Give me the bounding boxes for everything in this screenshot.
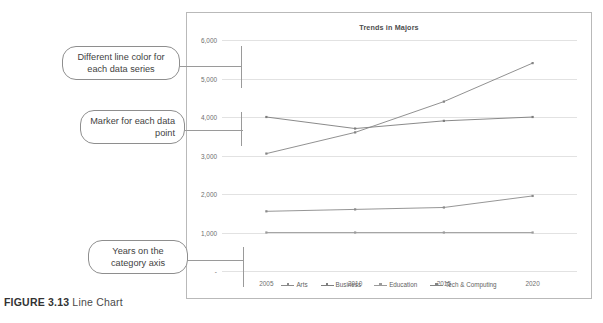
callout-years: Years on the category axis: [88, 240, 188, 274]
y-axis-tick-label: 6,000: [201, 37, 217, 44]
data-point-marker: [443, 101, 445, 103]
callout-years-leader: [188, 260, 244, 261]
callout-marker-text: Marker for each data point: [90, 116, 175, 138]
data-point-marker: [532, 116, 534, 118]
data-point-marker: [354, 127, 356, 129]
gridline: [222, 271, 577, 272]
callout-line-color-leader-tick: [241, 46, 242, 88]
y-axis-tick-label: 2,000: [201, 191, 217, 198]
callout-line-color-leader: [180, 66, 242, 67]
callout-marker-leader: [185, 130, 243, 131]
legend-item-arts[interactable]: Arts: [281, 281, 307, 288]
series-line-tech-computing: [266, 63, 532, 153]
callout-marker: Marker for each data point: [80, 110, 185, 144]
data-point-marker: [443, 120, 445, 122]
data-point-marker: [265, 231, 267, 233]
data-point-marker: [265, 152, 267, 154]
plot-area: -1,0002,0003,0004,0005,0006,000200520102…: [222, 40, 577, 271]
legend-item-label: Business: [336, 281, 362, 288]
data-point-marker: [354, 231, 356, 233]
legend-line-marker-icon: [430, 282, 443, 287]
legend-item-tech-computing[interactable]: Tech & Computing: [430, 281, 496, 288]
y-axis-tick-label: -: [215, 268, 217, 275]
data-point-marker: [265, 116, 267, 118]
legend-item-business[interactable]: Business: [321, 281, 362, 288]
figure-caption: FIGURE 3.13 Line Chart: [4, 296, 123, 308]
series-line-business: [266, 117, 532, 129]
legend-line-marker-icon: [321, 282, 334, 287]
callout-line-color: Different line color for each data serie…: [62, 46, 180, 80]
chart-legend[interactable]: ArtsBusinessEducationTech & Computing: [187, 281, 591, 288]
legend-item-label: Tech & Computing: [445, 281, 496, 288]
y-axis-tick-label: 3,000: [201, 152, 217, 159]
data-point-marker: [265, 210, 267, 212]
data-point-marker: [532, 62, 534, 64]
callout-marker-leader-tick: [241, 112, 242, 146]
y-axis-tick-label: 4,000: [201, 114, 217, 121]
legend-line-marker-icon: [374, 282, 387, 287]
data-point-marker: [354, 131, 356, 133]
legend-line-marker-icon: [281, 282, 294, 287]
series-line-arts: [266, 196, 532, 211]
callout-line-color-text: Different line color for each data serie…: [77, 52, 164, 74]
data-point-marker: [443, 206, 445, 208]
data-point-marker: [532, 195, 534, 197]
legend-item-label: Education: [389, 281, 417, 288]
chart-container: Trends in Majors -1,0002,0003,0004,0005,…: [186, 12, 592, 299]
y-axis-tick-label: 1,000: [201, 229, 217, 236]
data-point-marker: [532, 231, 534, 233]
data-point-marker: [354, 208, 356, 210]
chart-title: Trends in Majors: [187, 23, 591, 32]
legend-item-education[interactable]: Education: [374, 281, 417, 288]
figure-number: FIGURE 3.13: [4, 296, 69, 308]
data-point-marker: [443, 231, 445, 233]
y-axis-tick-label: 5,000: [201, 75, 217, 82]
series-layer: [222, 40, 577, 271]
figure-page: Trends in Majors -1,0002,0003,0004,0005,…: [0, 0, 603, 323]
legend-item-label: Arts: [296, 281, 307, 288]
callout-years-leader-tick: [243, 247, 244, 287]
callout-years-text: Years on the category axis: [111, 246, 165, 268]
figure-title: Line Chart: [72, 296, 122, 308]
